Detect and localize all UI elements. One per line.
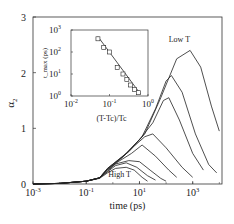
chart: 10-310-11011030123time (ps)α2Low THigh T… xyxy=(0,0,234,224)
inset-y-tick-label: 100 xyxy=(49,90,61,101)
x-tick-label: 10-1 xyxy=(79,186,94,198)
x-tick-label: 10-3 xyxy=(25,186,40,198)
inset-data-point xyxy=(96,37,100,41)
inset-data-point xyxy=(108,50,112,54)
inset-data-point xyxy=(121,72,125,76)
inset-x-tick-label: 10-2 xyxy=(64,98,78,109)
inset-x-tick-label: 10-1 xyxy=(103,98,117,109)
y-axis-label: α2 xyxy=(4,98,19,108)
inset-plot: 10-210-1100100101102103(T-Tc)/Tct_max (p… xyxy=(41,24,154,123)
inset-data-point xyxy=(115,65,119,69)
inset-data-point xyxy=(125,78,129,82)
inset-data-point xyxy=(133,87,137,91)
y-tick-label: 0 xyxy=(21,179,26,190)
y-tick-label: 2 xyxy=(21,68,26,79)
inset-y-axis-label: t_max (ps) xyxy=(41,47,49,78)
x-tick-label: 103 xyxy=(186,186,199,198)
inset-x-tick-label: 100 xyxy=(142,98,154,109)
x-axis-label: time (ps) xyxy=(110,200,146,212)
x-tick-label: 101 xyxy=(133,186,146,198)
inset-y-tick-label: 102 xyxy=(49,46,61,57)
data-series-line xyxy=(33,163,156,184)
inset-y-tick-label: 103 xyxy=(49,24,61,35)
inset-data-point xyxy=(102,46,106,50)
annotation-label: High T xyxy=(108,170,131,179)
y-tick-label: 3 xyxy=(21,12,26,23)
inset-data-point xyxy=(136,91,140,95)
inset-data-point xyxy=(129,83,133,87)
y-tick-label: 1 xyxy=(21,123,26,134)
data-series-line xyxy=(33,145,177,184)
annotation-label: Low T xyxy=(169,35,191,44)
inset-y-tick-label: 101 xyxy=(49,68,61,79)
inset-frame xyxy=(71,30,148,96)
inset-x-axis-label: (T-Tc)/Tc xyxy=(96,114,127,123)
